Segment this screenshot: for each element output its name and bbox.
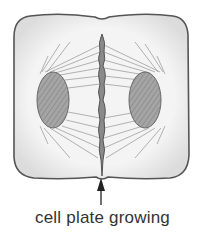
right-nucleus — [129, 72, 161, 128]
cell-plate-arrow — [97, 178, 105, 205]
cell-division-diagram — [0, 0, 205, 235]
left-nucleus — [37, 72, 69, 128]
cell-plate-label: cell plate growing — [0, 208, 205, 228]
cell-plate — [99, 34, 106, 176]
